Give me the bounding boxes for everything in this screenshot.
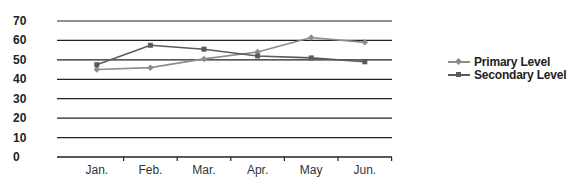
square-marker-icon bbox=[362, 59, 367, 64]
diamond-marker-icon bbox=[94, 66, 101, 73]
gridlines bbox=[57, 21, 392, 157]
y-tick-label: 0 bbox=[13, 150, 20, 164]
legend-item-secondary-level[interactable]: Secondary Level bbox=[448, 68, 566, 81]
legend: Primary Level Secondary Level bbox=[448, 55, 566, 81]
diamond-marker-icon bbox=[201, 56, 208, 63]
y-tick-label: 60 bbox=[13, 33, 27, 47]
square-marker-icon bbox=[456, 72, 461, 77]
square-marker-icon bbox=[255, 53, 260, 58]
diamond-marker-icon bbox=[308, 34, 315, 41]
legend-item-primary-level[interactable]: Primary Level bbox=[448, 55, 566, 68]
x-tick-label: Jun. bbox=[353, 163, 376, 177]
square-marker-icon bbox=[202, 47, 207, 52]
y-tick-label: 20 bbox=[13, 111, 27, 125]
y-tick-label: 10 bbox=[13, 131, 27, 145]
x-tick-label: Feb. bbox=[138, 163, 162, 177]
legend-label: Secondary Level bbox=[474, 68, 566, 82]
line-chart: 010203040506070 Jan.Feb.Mar.Apr.MayJun. bbox=[0, 0, 582, 191]
y-tick-label: 30 bbox=[13, 92, 27, 106]
y-tick-label: 50 bbox=[13, 53, 27, 67]
x-tick-label: Apr. bbox=[247, 163, 268, 177]
square-marker-icon bbox=[94, 62, 99, 67]
square-marker-icon bbox=[148, 43, 153, 48]
diamond-marker-icon bbox=[147, 64, 154, 71]
square-marker-icon bbox=[309, 55, 314, 60]
x-tick-label: May bbox=[300, 163, 323, 177]
x-tick-label: Jan. bbox=[85, 163, 108, 177]
x-tick-label: Mar. bbox=[192, 163, 215, 177]
x-axis: Jan.Feb.Mar.Apr.MayJun. bbox=[85, 157, 391, 177]
y-tick-label: 70 bbox=[13, 14, 27, 28]
y-axis-tick-labels: 010203040506070 bbox=[13, 14, 27, 164]
legend-swatch-secondary bbox=[448, 70, 470, 80]
y-tick-label: 40 bbox=[13, 72, 27, 86]
diamond-marker-icon bbox=[455, 57, 462, 64]
legend-swatch-primary bbox=[448, 57, 470, 67]
legend-label: Primary Level bbox=[474, 55, 550, 69]
